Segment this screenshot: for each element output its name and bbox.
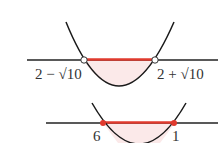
bottom-right-root-label: 1 xyxy=(172,129,180,143)
top-left-root-label: 2 − √10 xyxy=(35,67,82,82)
top-right-open-point xyxy=(152,57,158,63)
bottom-diagram xyxy=(46,103,218,143)
bottom-left-closed-point xyxy=(100,120,106,126)
top-left-open-point xyxy=(81,57,87,63)
top-right-root-label: 2 + √10 xyxy=(157,67,204,82)
bottom-left-root-label: 6 xyxy=(93,129,101,143)
bottom-right-closed-point xyxy=(171,120,177,126)
